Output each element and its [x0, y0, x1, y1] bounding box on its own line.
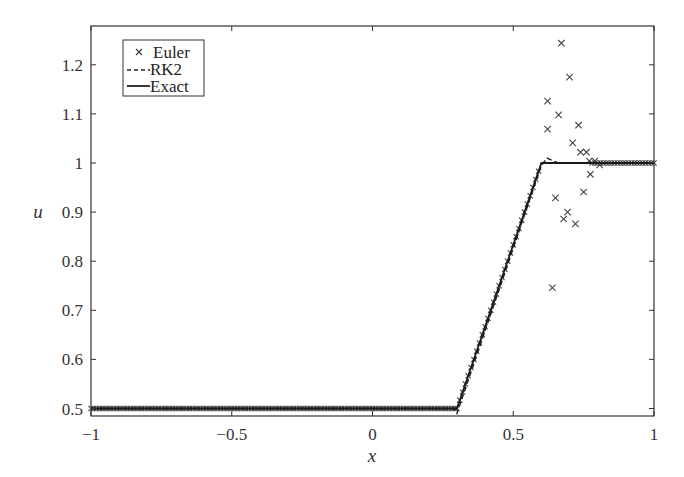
y-tick-label: 0.9 [62, 203, 83, 222]
legend-label-exact: Exact [150, 77, 189, 96]
series-rk2-line [91, 158, 654, 413]
y-tick-label: 0.6 [62, 350, 83, 369]
legend: Euler RK2 Exact [123, 40, 204, 96]
y-tick-label: 1 [75, 154, 84, 173]
y-axis-ticks: 0.50.60.70.80.911.11.2 [62, 56, 654, 419]
x-tick-label: 1 [650, 425, 659, 444]
x-tick-label: −0.5 [216, 425, 247, 444]
y-tick-label: 0.7 [62, 301, 84, 320]
x-tick-label: 0.5 [503, 425, 524, 444]
series-exact-line [91, 163, 654, 409]
y-axis-label: u [33, 201, 43, 222]
x-axis-label: x [367, 445, 377, 466]
y-tick-label: 1.1 [62, 105, 83, 124]
x-tick-label: 0 [368, 425, 377, 444]
y-tick-label: 0.5 [62, 400, 83, 419]
chart: −1−0.500.51 0.50.60.70.80.911.11.2 x u E… [0, 0, 684, 477]
x-tick-label: −1 [82, 425, 100, 444]
y-tick-label: 1.2 [62, 56, 83, 75]
y-tick-label: 0.8 [62, 252, 83, 271]
